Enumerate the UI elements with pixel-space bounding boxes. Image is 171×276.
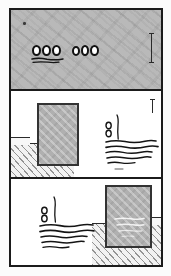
margin-rule-panel-2 — [152, 99, 153, 113]
scribble-strokes — [38, 195, 100, 253]
oval-mark — [42, 45, 51, 56]
margin-rule-cap-top — [149, 33, 154, 34]
comic-panel-1[interactable] — [11, 10, 161, 91]
comic-strip-frame — [9, 8, 163, 267]
comic-panel-3[interactable] — [11, 179, 161, 265]
block-shape-panel-3 — [105, 185, 152, 248]
oval-mark — [81, 45, 89, 56]
oval-mark — [90, 45, 99, 56]
margin-rule-cap-bottom — [149, 62, 154, 63]
comic-panel-2[interactable] — [11, 91, 161, 179]
oval-group-right — [72, 45, 102, 58]
block-interior-marks — [107, 187, 154, 250]
oval-mark — [52, 45, 61, 56]
ground-shelf-panel-2 — [11, 137, 30, 145]
oval-group-underline — [31, 57, 67, 65]
ink-speck — [23, 22, 26, 25]
margin-rule-panel-1 — [151, 33, 152, 63]
comic-strip-page — [0, 0, 171, 276]
scribble-cluster-panel-3 — [38, 195, 100, 253]
oval-mark — [32, 45, 41, 56]
margin-rule-cap — [150, 99, 155, 100]
scribble-cluster-panel-2 — [105, 113, 161, 171]
oval-mark — [72, 46, 80, 56]
oval-group-left — [32, 45, 64, 59]
scribble-strokes — [105, 113, 161, 171]
block-shape-panel-2 — [37, 103, 79, 166]
